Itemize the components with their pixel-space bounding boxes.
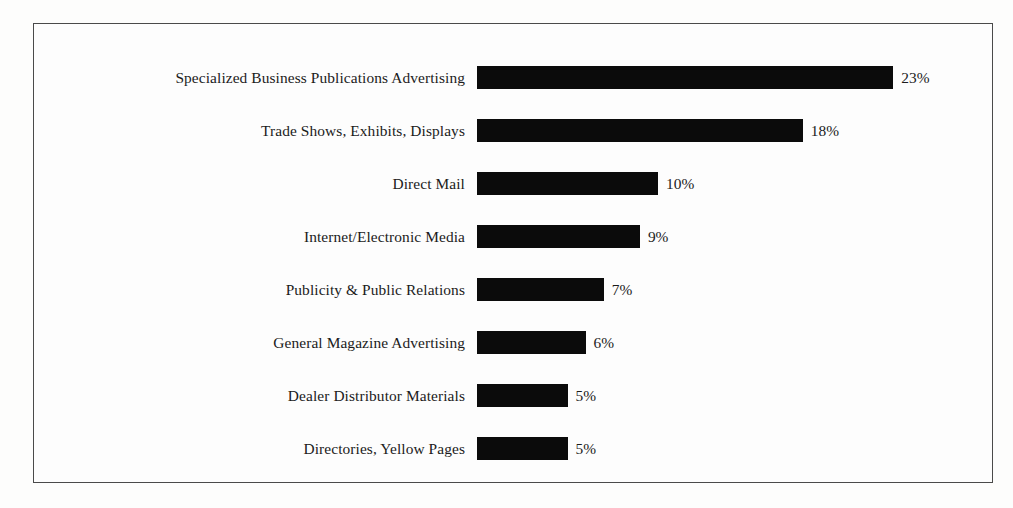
chart-figure: Specialized Business Publications Advert…: [0, 0, 1013, 508]
bar-category-label: General Magazine Advertising: [273, 335, 465, 350]
bar-track: 18%: [477, 119, 839, 142]
bar: [477, 172, 658, 195]
bar-category-label: Trade Shows, Exhibits, Displays: [261, 123, 465, 138]
bar-track: 5%: [477, 384, 596, 407]
bar-track: 5%: [477, 437, 596, 460]
bar-value-label: 5%: [576, 388, 597, 403]
bar-value-label: 10%: [666, 176, 694, 191]
bar: [477, 331, 586, 354]
bar-track: 9%: [477, 225, 668, 248]
bar-row: Dealer Distributor Materials5%: [34, 384, 994, 407]
bar-row: Directories, Yellow Pages5%: [34, 437, 994, 460]
bar-row: Internet/Electronic Media9%: [34, 225, 994, 248]
bar-value-label: 9%: [648, 229, 669, 244]
bar-track: 10%: [477, 172, 694, 195]
bar-category-label: Internet/Electronic Media: [304, 229, 465, 244]
bar: [477, 384, 568, 407]
bar-category-label: Directories, Yellow Pages: [303, 441, 465, 456]
bar-track: 7%: [477, 278, 632, 301]
bar-track: 6%: [477, 331, 614, 354]
bar: [477, 225, 640, 248]
bar: [477, 119, 803, 142]
bar-value-label: 6%: [594, 335, 615, 350]
bar-track: 23%: [477, 66, 930, 89]
bar: [477, 437, 568, 460]
bar-value-label: 7%: [612, 282, 633, 297]
bar-category-label: Dealer Distributor Materials: [288, 388, 465, 403]
chart-frame: Specialized Business Publications Advert…: [33, 23, 993, 483]
bar-row: Direct Mail10%: [34, 172, 994, 195]
bar-row: Specialized Business Publications Advert…: [34, 66, 994, 89]
bar-row: General Magazine Advertising6%: [34, 331, 994, 354]
bar: [477, 278, 604, 301]
bar-category-label: Publicity & Public Relations: [286, 282, 465, 297]
bar-category-label: Specialized Business Publications Advert…: [175, 70, 465, 85]
bar-value-label: 18%: [811, 123, 839, 138]
plot-area: Specialized Business Publications Advert…: [34, 24, 994, 484]
bar: [477, 66, 893, 89]
bar-value-label: 23%: [901, 70, 929, 85]
bar-row: Trade Shows, Exhibits, Displays18%: [34, 119, 994, 142]
bar-row: Publicity & Public Relations7%: [34, 278, 994, 301]
bar-value-label: 5%: [576, 441, 597, 456]
bar-category-label: Direct Mail: [393, 176, 465, 191]
